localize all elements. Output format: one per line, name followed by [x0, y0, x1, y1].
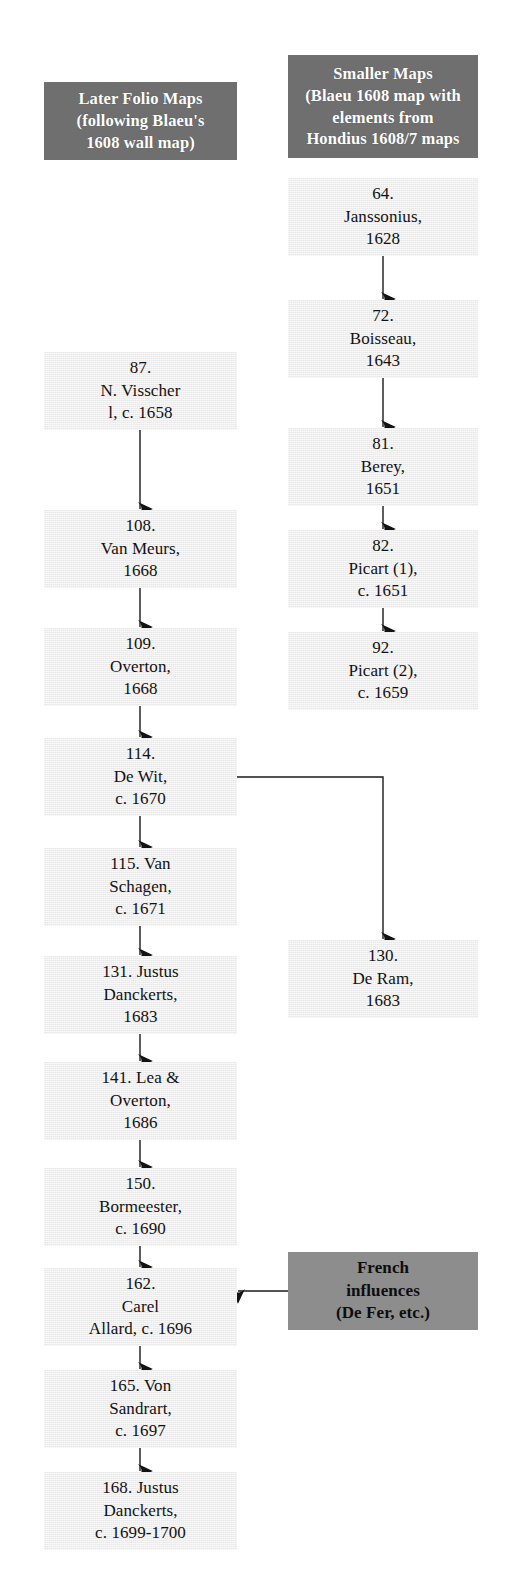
node-line-3: c. 1699-1700 [95, 1522, 186, 1545]
header-left-line-1: Later Folio Maps [78, 88, 202, 110]
header-right-line-4: Hondius 1608/7 maps [306, 128, 459, 150]
node-de-ram[interactable]: 130. De Ram, 1683 [288, 940, 478, 1018]
node-line-1: 108. [125, 515, 155, 538]
node-line-1: 131. Justus [102, 961, 179, 984]
node-line-1: 109. [125, 633, 155, 656]
node-line-3: 1683 [123, 1006, 157, 1029]
node-berey[interactable]: 81. Berey, 1651 [288, 428, 478, 506]
node-line-2: Janssonius, [344, 206, 422, 229]
node-line-3: c. 1659 [358, 682, 409, 705]
node-line-1: 72. [372, 305, 394, 328]
node-line-1: 150. [125, 1173, 155, 1196]
node-line-3: 1628 [366, 228, 400, 251]
node-van-meurs[interactable]: 108. Van Meurs, 1668 [44, 510, 237, 588]
node-line-2: Picart (2), [348, 660, 417, 683]
node-line-1: 114. [126, 743, 156, 766]
node-justus-danckerts-1683[interactable]: 131. Justus Danckerts, 1683 [44, 956, 237, 1034]
header-right-line-2: (Blaeu 1608 map with [305, 85, 461, 107]
node-boisseau[interactable]: 72. Boisseau, 1643 [288, 300, 478, 378]
node-van-schagen[interactable]: 115. Van Schagen, c. 1671 [44, 848, 237, 926]
node-line-1: 130. [368, 945, 398, 968]
node-line-3: 1686 [123, 1112, 157, 1135]
node-line-1: 141. Lea & [102, 1067, 180, 1090]
node-line-2: Danckerts, [103, 984, 177, 1007]
node-line-2: Bormeester, [99, 1196, 182, 1219]
node-line-2: Picart (1), [348, 558, 417, 581]
node-line-2: De Wit, [114, 766, 168, 789]
diagram-canvas: Later Folio Maps (following Blaeu's 1608… [0, 0, 513, 1585]
node-von-sandrart[interactable]: 165. Von Sandrart, c. 1697 [44, 1370, 237, 1448]
node-line-3: 1683 [366, 990, 400, 1013]
node-line-3: c. 1690 [115, 1218, 166, 1241]
connector-dewit-to-deram [237, 777, 383, 939]
node-picart-1[interactable]: 82. Picart (1), c. 1651 [288, 530, 478, 608]
node-line-2: Carel [122, 1296, 159, 1319]
node-janssonius[interactable]: 64. Janssonius, 1628 [288, 178, 478, 256]
node-line-1: 168. Justus [102, 1477, 179, 1500]
node-overton[interactable]: 109. Overton, 1668 [44, 628, 237, 706]
header-right-line-1: Smaller Maps [333, 63, 432, 85]
node-line-3: 1668 [123, 678, 157, 701]
node-line-2: De Ram, [352, 968, 413, 991]
node-line-1: 64. [372, 183, 394, 206]
node-line-2: Boisseau, [350, 328, 417, 351]
node-line-1: 165. Von [110, 1375, 172, 1398]
header-left-line-2: (following Blaeu's [77, 110, 205, 132]
node-line-2: Van Meurs, [101, 538, 180, 561]
node-line-3: l, c. 1658 [108, 402, 172, 425]
node-line-2: Sandrart, [109, 1398, 172, 1421]
node-line-3: 1668 [123, 560, 157, 583]
header-right-smaller-maps: Smaller Maps (Blaeu 1608 map with elemen… [288, 55, 478, 158]
note-line-3: (De Fer, etc.) [336, 1302, 430, 1325]
note-french-influences: French influences (De Fer, etc.) [288, 1252, 478, 1330]
node-carel-allard[interactable]: 162. Carel Allard, c. 1696 [44, 1268, 237, 1346]
node-line-1: 92. [372, 637, 394, 660]
node-bormeester[interactable]: 150. Bormeester, c. 1690 [44, 1168, 237, 1246]
node-line-1: 81. [372, 433, 394, 456]
node-line-1: 162. [125, 1273, 155, 1296]
header-right-line-3: elements from [332, 107, 433, 129]
header-left-folio-maps: Later Folio Maps (following Blaeu's 1608… [44, 82, 237, 160]
note-line-1: French [357, 1257, 409, 1280]
node-line-2: Danckerts, [103, 1500, 177, 1523]
node-line-2: N. Visscher [100, 380, 180, 403]
node-line-2: Berey, [361, 456, 405, 479]
node-visscher[interactable]: 87. N. Visscher l, c. 1658 [44, 352, 237, 430]
node-line-3: 1643 [366, 350, 400, 373]
node-line-3: c. 1697 [115, 1420, 166, 1443]
node-line-3: c. 1671 [115, 898, 166, 921]
node-de-wit[interactable]: 114. De Wit, c. 1670 [44, 738, 237, 816]
note-line-2: influences [346, 1280, 420, 1303]
node-line-1: 82. [372, 535, 394, 558]
node-line-1: 87. [130, 357, 152, 380]
node-lea-and-overton[interactable]: 141. Lea & Overton, 1686 [44, 1062, 237, 1140]
node-line-2: Schagen, [109, 876, 172, 899]
node-line-1: 115. Van [110, 853, 170, 876]
node-line-3: c. 1651 [358, 580, 409, 603]
node-line-3: Allard, c. 1696 [89, 1318, 192, 1341]
node-line-3: 1651 [366, 478, 400, 501]
header-left-line-3: 1608 wall map) [86, 132, 195, 154]
node-picart-2[interactable]: 92. Picart (2), c. 1659 [288, 632, 478, 710]
node-line-2: Overton, [110, 1090, 171, 1113]
node-justus-danckerts-1699[interactable]: 168. Justus Danckerts, c. 1699-1700 [44, 1472, 237, 1550]
node-line-3: c. 1670 [115, 788, 166, 811]
node-line-2: Overton, [110, 656, 171, 679]
